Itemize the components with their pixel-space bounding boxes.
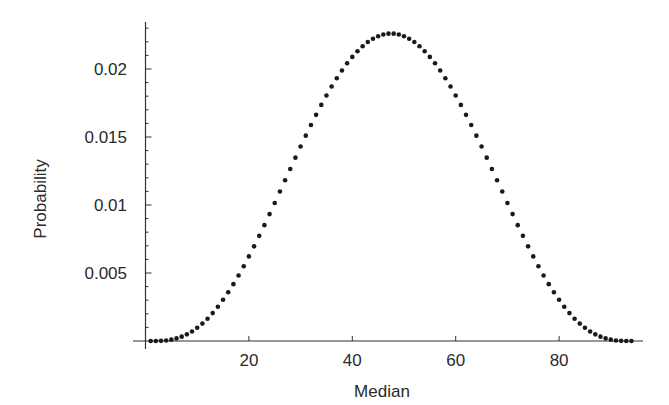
data-point <box>267 212 272 217</box>
data-point <box>562 304 567 309</box>
data-point <box>257 234 262 239</box>
y-tick-label: 0.015 <box>84 128 127 147</box>
data-point <box>433 61 438 66</box>
data-point <box>500 189 505 194</box>
data-point <box>278 189 283 194</box>
data-point <box>200 321 205 326</box>
data-point <box>159 339 164 344</box>
data-point <box>567 311 572 316</box>
data-point <box>448 84 453 89</box>
data-point <box>236 273 241 278</box>
data-point <box>531 254 536 259</box>
data-point <box>272 201 277 206</box>
data-point <box>319 103 324 108</box>
data-point <box>402 34 407 39</box>
data-point <box>412 40 417 45</box>
data-point <box>577 321 582 326</box>
data-point <box>428 55 433 60</box>
data-point <box>195 326 200 331</box>
data-point <box>407 37 412 42</box>
data-point <box>288 167 293 172</box>
data-point <box>603 336 608 341</box>
data-point <box>521 234 526 239</box>
data-point <box>298 144 303 149</box>
data-point <box>588 329 593 334</box>
data-point <box>541 273 546 278</box>
data-point <box>453 93 458 98</box>
data-point <box>283 178 288 183</box>
data-point <box>619 339 624 344</box>
data-point <box>309 123 314 128</box>
data-point <box>185 332 190 337</box>
data-point <box>226 290 231 295</box>
data-point <box>360 44 365 49</box>
data-point <box>536 264 541 269</box>
data-point <box>474 133 479 138</box>
y-tick-label: 0.005 <box>84 264 127 283</box>
data-point <box>190 329 195 334</box>
data-point <box>552 290 557 295</box>
data-point <box>221 297 226 302</box>
data-point <box>154 339 159 344</box>
data-point <box>241 264 246 269</box>
data-point <box>231 282 236 287</box>
data-point <box>417 44 422 49</box>
data-point <box>205 316 210 321</box>
data-point <box>490 167 495 172</box>
data-point <box>179 334 184 339</box>
data-point <box>629 339 634 344</box>
data-point <box>345 61 350 66</box>
data-point <box>252 244 257 249</box>
y-tick-label: 0.01 <box>94 196 127 215</box>
data-point <box>350 55 355 60</box>
data-point <box>262 223 267 228</box>
data-point <box>334 76 339 81</box>
data-point <box>314 113 319 118</box>
data-point <box>386 31 391 36</box>
data-point <box>459 103 464 108</box>
median-probability-chart: 204060800.0050.010.0150.02 Median Probab… <box>0 0 669 405</box>
data-point <box>366 40 371 45</box>
axes: 204060800.0050.010.0150.02 <box>84 22 643 370</box>
y-tick-label: 0.02 <box>94 60 127 79</box>
data-point <box>216 304 221 309</box>
x-tick-label: 20 <box>239 351 258 370</box>
x-axis-label: Median <box>354 382 410 401</box>
data-point <box>495 178 500 183</box>
data-point <box>303 133 308 138</box>
y-axis-label: Probability <box>31 159 50 239</box>
data-point <box>546 282 551 287</box>
data-point <box>484 155 489 160</box>
data-point <box>293 155 298 160</box>
x-tick-label: 40 <box>343 351 362 370</box>
data-point <box>355 49 360 54</box>
data-point <box>210 311 215 316</box>
data-point <box>443 76 448 81</box>
data-point <box>526 244 531 249</box>
data-point <box>174 336 179 341</box>
data-point <box>515 223 520 228</box>
data-point <box>593 332 598 337</box>
data-point <box>164 338 169 343</box>
x-tick-label: 60 <box>446 351 465 370</box>
data-point <box>572 316 577 321</box>
data-point <box>397 32 402 37</box>
data-point <box>324 93 329 98</box>
data-point <box>479 144 484 149</box>
data-point <box>464 113 469 118</box>
data-point <box>510 212 515 217</box>
data-point <box>381 32 386 37</box>
data-point <box>583 326 588 331</box>
data-point <box>598 334 603 339</box>
data-point <box>247 254 252 259</box>
x-tick-label: 80 <box>550 351 569 370</box>
data-point <box>329 84 334 89</box>
data-point <box>557 297 562 302</box>
chart-canvas: 204060800.0050.010.0150.02 Median Probab… <box>0 0 669 405</box>
data-point <box>391 31 396 36</box>
data-point <box>624 339 629 344</box>
data-point <box>438 68 443 73</box>
data-point <box>505 201 510 206</box>
data-point <box>148 339 153 344</box>
data-point <box>469 123 474 128</box>
